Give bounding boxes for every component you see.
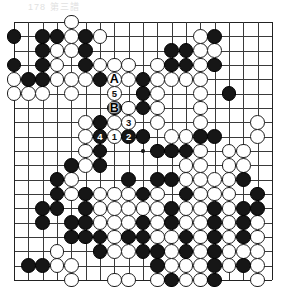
white-stone[interactable] bbox=[121, 187, 136, 202]
white-stone[interactable] bbox=[250, 215, 265, 230]
white-stone[interactable] bbox=[222, 158, 237, 173]
white-stone[interactable] bbox=[164, 244, 179, 259]
black-stone[interactable] bbox=[64, 230, 79, 245]
black-stone[interactable] bbox=[236, 172, 251, 187]
white-stone[interactable] bbox=[193, 29, 208, 44]
white-stone[interactable] bbox=[64, 86, 79, 101]
black-stone[interactable] bbox=[136, 129, 151, 144]
black-stone[interactable] bbox=[7, 58, 22, 73]
white-stone[interactable] bbox=[64, 72, 79, 87]
white-stone[interactable] bbox=[78, 72, 93, 87]
white-stone[interactable] bbox=[64, 273, 79, 288]
white-stone[interactable] bbox=[150, 273, 165, 288]
move-3[interactable]: 3 bbox=[121, 115, 136, 130]
black-stone[interactable] bbox=[250, 187, 265, 202]
white-stone[interactable] bbox=[193, 172, 208, 187]
white-stone[interactable] bbox=[222, 258, 237, 273]
white-stone[interactable] bbox=[21, 86, 36, 101]
white-stone[interactable] bbox=[236, 158, 251, 173]
white-stone[interactable] bbox=[193, 101, 208, 116]
white-stone[interactable] bbox=[107, 201, 122, 216]
white-stone[interactable] bbox=[250, 244, 265, 259]
white-stone[interactable] bbox=[64, 258, 79, 273]
black-stone[interactable] bbox=[207, 129, 222, 144]
black-stone[interactable] bbox=[164, 273, 179, 288]
white-stone[interactable] bbox=[179, 201, 194, 216]
black-stone[interactable] bbox=[193, 129, 208, 144]
white-stone[interactable] bbox=[193, 158, 208, 173]
black-stone[interactable] bbox=[207, 258, 222, 273]
white-stone[interactable] bbox=[93, 215, 108, 230]
white-stone[interactable] bbox=[107, 215, 122, 230]
white-stone[interactable] bbox=[193, 144, 208, 159]
black-stone[interactable] bbox=[222, 86, 237, 101]
white-stone[interactable] bbox=[179, 158, 194, 173]
black-stone[interactable] bbox=[93, 144, 108, 159]
white-stone[interactable] bbox=[193, 258, 208, 273]
white-stone[interactable] bbox=[193, 72, 208, 87]
white-stone[interactable] bbox=[164, 129, 179, 144]
white-stone[interactable] bbox=[193, 273, 208, 288]
black-stone[interactable] bbox=[35, 201, 50, 216]
white-stone[interactable] bbox=[121, 244, 136, 259]
white-stone[interactable] bbox=[150, 230, 165, 245]
white-stone[interactable] bbox=[150, 115, 165, 130]
white-stone[interactable] bbox=[50, 258, 65, 273]
white-stone[interactable] bbox=[7, 72, 22, 87]
black-stone[interactable] bbox=[78, 215, 93, 230]
black-stone[interactable] bbox=[236, 230, 251, 245]
white-stone[interactable] bbox=[250, 230, 265, 245]
black-stone[interactable] bbox=[207, 29, 222, 44]
black-stone[interactable] bbox=[35, 215, 50, 230]
white-stone[interactable] bbox=[50, 58, 65, 73]
white-stone[interactable] bbox=[164, 230, 179, 245]
black-stone[interactable] bbox=[93, 158, 108, 173]
white-stone[interactable] bbox=[78, 158, 93, 173]
black-stone[interactable] bbox=[207, 230, 222, 245]
white-stone[interactable] bbox=[121, 58, 136, 73]
black-stone[interactable] bbox=[150, 258, 165, 273]
white-stone[interactable] bbox=[222, 144, 237, 159]
black-stone[interactable] bbox=[136, 72, 151, 87]
white-stone[interactable] bbox=[50, 244, 65, 259]
white-stone[interactable] bbox=[50, 43, 65, 58]
white-stone[interactable] bbox=[150, 187, 165, 202]
black-stone[interactable] bbox=[179, 58, 194, 73]
white-stone[interactable] bbox=[136, 201, 151, 216]
black-stone[interactable] bbox=[150, 172, 165, 187]
white-stone[interactable] bbox=[107, 273, 122, 288]
black-stone[interactable] bbox=[50, 187, 65, 202]
white-stone[interactable] bbox=[7, 86, 22, 101]
black-stone[interactable] bbox=[207, 201, 222, 216]
white-stone[interactable] bbox=[64, 15, 79, 30]
white-stone[interactable] bbox=[193, 201, 208, 216]
white-stone[interactable] bbox=[236, 144, 251, 159]
white-stone[interactable] bbox=[150, 201, 165, 216]
black-stone[interactable] bbox=[207, 58, 222, 73]
move-5[interactable]: 5 bbox=[107, 86, 122, 101]
white-stone[interactable] bbox=[222, 244, 237, 259]
white-stone[interactable] bbox=[222, 201, 237, 216]
black-stone[interactable] bbox=[164, 43, 179, 58]
white-stone[interactable] bbox=[179, 72, 194, 87]
black-stone[interactable] bbox=[179, 244, 194, 259]
white-stone[interactable] bbox=[222, 172, 237, 187]
black-stone[interactable] bbox=[121, 172, 136, 187]
white-stone[interactable] bbox=[107, 187, 122, 202]
white-stone[interactable] bbox=[64, 29, 79, 44]
white-stone[interactable] bbox=[222, 230, 237, 245]
black-stone[interactable] bbox=[136, 86, 151, 101]
white-stone[interactable] bbox=[207, 43, 222, 58]
black-stone[interactable] bbox=[179, 144, 194, 159]
black-stone[interactable] bbox=[21, 72, 36, 87]
white-stone[interactable] bbox=[150, 101, 165, 116]
white-stone[interactable] bbox=[93, 201, 108, 216]
black-stone[interactable] bbox=[179, 230, 194, 245]
white-stone[interactable] bbox=[78, 144, 93, 159]
black-stone[interactable] bbox=[35, 58, 50, 73]
move-4[interactable]: 4 bbox=[93, 129, 108, 144]
white-stone[interactable] bbox=[150, 72, 165, 87]
white-stone[interactable] bbox=[250, 115, 265, 130]
white-stone[interactable] bbox=[207, 172, 222, 187]
white-stone[interactable] bbox=[222, 215, 237, 230]
